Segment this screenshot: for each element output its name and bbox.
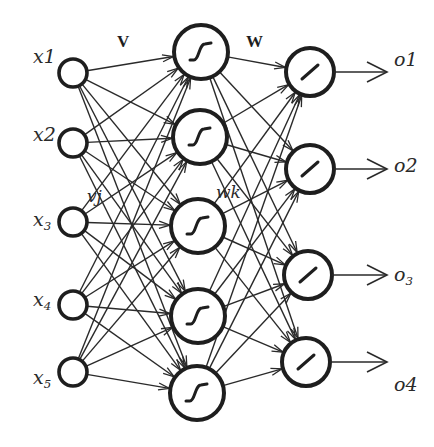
weight-label-vj: vj [87,186,103,206]
hidden-node-h1 [174,25,228,79]
input-node-x2 [59,129,87,157]
weight-matrix-w-label: W [246,32,263,51]
edge-x5-h5 [87,374,170,388]
input-label-x3: x3 [33,208,51,233]
input-label-x4: x4 [33,288,51,313]
weight-label-wk: wk [216,182,241,202]
edge-h4-o3 [223,284,284,307]
input-node-x5 [59,358,87,386]
output-label-o1: o1 [394,48,418,70]
arrowhead-icon [276,180,287,188]
edge-x1-h1 [87,57,174,71]
input-node-x3 [59,208,87,236]
arrowhead-icon [163,241,174,250]
edge-h4-o4 [223,327,283,353]
hidden-node-h2 [173,110,227,164]
input-label-x1: x1 [33,45,56,67]
input-node-x1 [59,59,87,87]
output-label-o4: o4 [394,373,418,395]
arrowhead-icon [277,85,288,94]
edge-h5-o4 [223,369,282,386]
hidden-node-h3 [171,199,225,253]
neural-network-diagram: V W x1x2x3x4x5o1o2o3o4vjwk [0,0,434,447]
hidden-node-h4 [171,289,225,343]
output-label-o2: o2 [394,154,418,176]
input-label-x5: x5 [33,366,51,391]
input-label-x2: x2 [33,123,56,145]
edge-x4-h5 [84,313,174,377]
edge-h2-o1 [223,85,288,124]
output-label-o3: o3 [394,263,413,288]
weight-matrix-v-label: V [117,32,130,51]
edge-x3-h3 [87,222,170,225]
output-arrows [330,62,387,372]
edge-x5-h4 [86,327,173,366]
input-node-x4 [59,291,87,319]
hidden-node-h5 [170,366,224,420]
